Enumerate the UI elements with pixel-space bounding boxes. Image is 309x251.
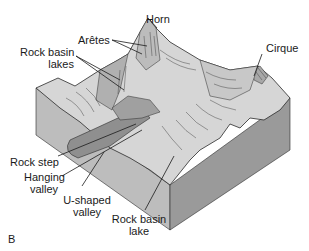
panel-letter: B: [8, 233, 15, 245]
label-u-shaped-valley-line1: U-shaped: [60, 194, 114, 206]
label-hanging-valley-line1: Hanging: [24, 171, 64, 183]
label-rock-basin-lakes-line2: lakes: [20, 58, 74, 70]
label-hanging-valley-line2: valley: [24, 183, 64, 195]
label-rock-basin-lake-line2: lake: [110, 225, 168, 237]
label-cirque: Cirque: [266, 42, 298, 54]
label-horn: Horn: [146, 13, 170, 25]
label-rock-basin-lake-line1: Rock basin: [110, 213, 168, 225]
label-rock-step: Rock step: [10, 156, 59, 168]
label-u-shaped-valley-line2: valley: [60, 206, 114, 218]
label-aretes: Arêtes: [78, 34, 110, 46]
label-rock-basin-lakes-line1: Rock basin: [20, 46, 74, 58]
horn-shading: [136, 18, 160, 70]
